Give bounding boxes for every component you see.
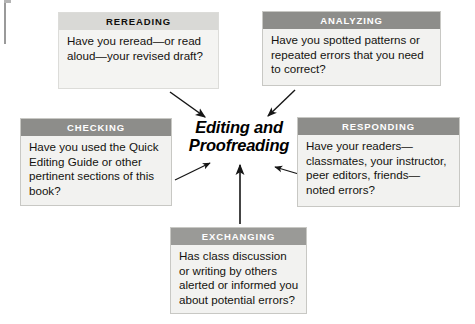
center-label: Editing and Proofreading	[180, 119, 298, 154]
concept-box-rereading[interactable]: REREADING Have you reread—or read aloud—…	[58, 12, 219, 89]
center-label-line2: Proofreading	[180, 137, 298, 155]
box-body-responding: Have your readers— classmates, your inst…	[298, 135, 459, 202]
arrow-checking-to-center	[175, 163, 210, 180]
box-heading-exchanging: EXCHANGING	[171, 228, 306, 245]
concept-box-analyzing[interactable]: ANALYZING Have you spotted patterns or r…	[262, 11, 441, 86]
concept-box-checking[interactable]: CHECKING Have you used the Quick Editing…	[20, 118, 172, 206]
box-heading-checking: CHECKING	[21, 119, 171, 136]
box-heading-responding: RESPONDING	[298, 118, 459, 135]
concept-box-responding[interactable]: RESPONDING Have your readers— classmates…	[297, 117, 460, 207]
box-body-analyzing: Have you spotted patterns or repeated er…	[263, 29, 440, 81]
arrow-analyzing-to-center	[268, 90, 295, 116]
box-heading-analyzing: ANALYZING	[263, 12, 440, 29]
editing-proofreading-diagram: REREADING Have you reread—or read aloud—…	[0, 0, 475, 324]
box-body-rereading: Have you reread—or read aloud—your revis…	[59, 30, 218, 68]
arrow-rereading-to-center	[170, 92, 205, 117]
box-body-checking: Have you used the Quick Editing Guide or…	[21, 136, 171, 203]
box-body-exchanging: Has class discussion or writing by other…	[171, 245, 306, 312]
center-label-line1: Editing and	[180, 119, 298, 137]
box-heading-rereading: REREADING	[59, 13, 218, 30]
concept-box-exchanging[interactable]: EXCHANGING Has class discussion or writi…	[170, 227, 307, 314]
